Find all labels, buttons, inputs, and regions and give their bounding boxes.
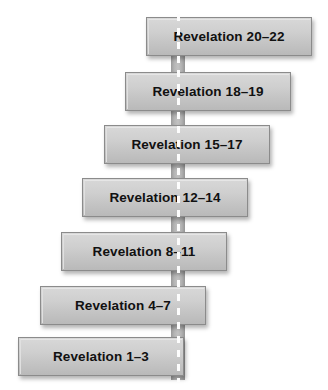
flow-node[interactable]: Revelation 1–3 xyxy=(18,337,184,376)
flow-node[interactable]: Revelation 15–17 xyxy=(104,125,270,164)
flow-node[interactable]: Revelation 20–22 xyxy=(146,17,312,56)
flow-node[interactable]: Revelation 4–7 xyxy=(40,286,206,325)
flow-node-label: Revelation 12–14 xyxy=(109,190,220,205)
flow-node[interactable]: Revelation 12–14 xyxy=(82,178,248,217)
revelation-structure-diagram: Revelation 20–22 Revelation 18–19 Revela… xyxy=(0,0,328,390)
flow-node-label: Revelation 15–17 xyxy=(131,137,242,152)
flow-node[interactable]: Revelation 8–11 xyxy=(61,232,227,271)
flow-node-label: Revelation 4–7 xyxy=(75,298,171,313)
flow-node-label: Revelation 1–3 xyxy=(53,349,149,364)
flow-node[interactable]: Revelation 18–19 xyxy=(125,72,291,111)
flow-node-label: Revelation 20–22 xyxy=(173,29,284,44)
vertical-dashed-line-icon xyxy=(177,14,180,382)
flow-node-label: Revelation 18–19 xyxy=(152,84,263,99)
